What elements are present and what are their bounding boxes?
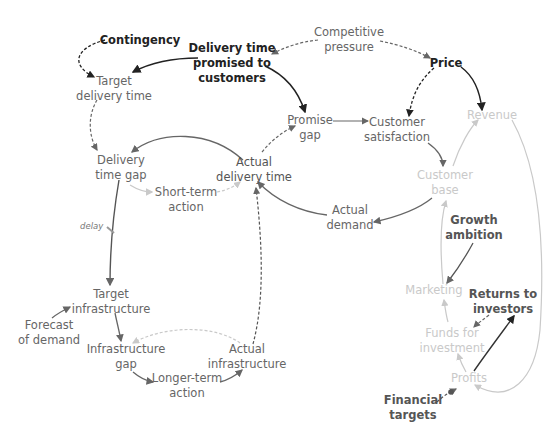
- node-customer-satisfaction: Customersatisfaction: [364, 115, 430, 145]
- node-short-term-action: Short-termaction: [155, 185, 217, 215]
- node-contingency: Contingency: [100, 33, 181, 48]
- node-marketing: Marketing: [405, 283, 462, 298]
- node-customer-base: Customerbase: [417, 168, 473, 198]
- node-profits: Profits: [451, 371, 487, 386]
- node-delivery-time-promised: Delivery timepromised tocustomers: [189, 41, 276, 86]
- node-actual-infrastructure: Actualinfrastructure: [208, 342, 287, 372]
- node-delivery-time-gap: Deliverytime gap: [95, 153, 146, 183]
- node-revenue: Revenue: [467, 108, 517, 123]
- node-financial-targets: Financialtargets: [384, 393, 442, 423]
- node-price: Price: [430, 56, 463, 71]
- node-longer-term-action: Longer-termaction: [152, 371, 222, 401]
- node-target-infrastructure: Targetinfrastructure: [72, 287, 151, 317]
- node-promise-gap: Promisegap: [287, 113, 333, 143]
- node-actual-delivery-time: Actualdelivery time: [216, 155, 292, 185]
- delay-annotation: delay: [80, 221, 103, 231]
- node-target-delivery-time: Targetdelivery time: [76, 74, 152, 104]
- node-competitive-pressure: Competitivepressure: [314, 25, 384, 55]
- node-infrastructure-gap: Infrastructuregap: [87, 342, 166, 372]
- node-forecast-of-demand: Forecastof demand: [18, 318, 80, 348]
- node-growth-ambition: Growthambition: [445, 213, 502, 243]
- node-returns-to-investors: Returns toinvestors: [469, 287, 537, 317]
- node-actual-demand: Actualdemand: [326, 203, 373, 233]
- node-funds-for-investment: Funds forinvestment: [420, 326, 485, 356]
